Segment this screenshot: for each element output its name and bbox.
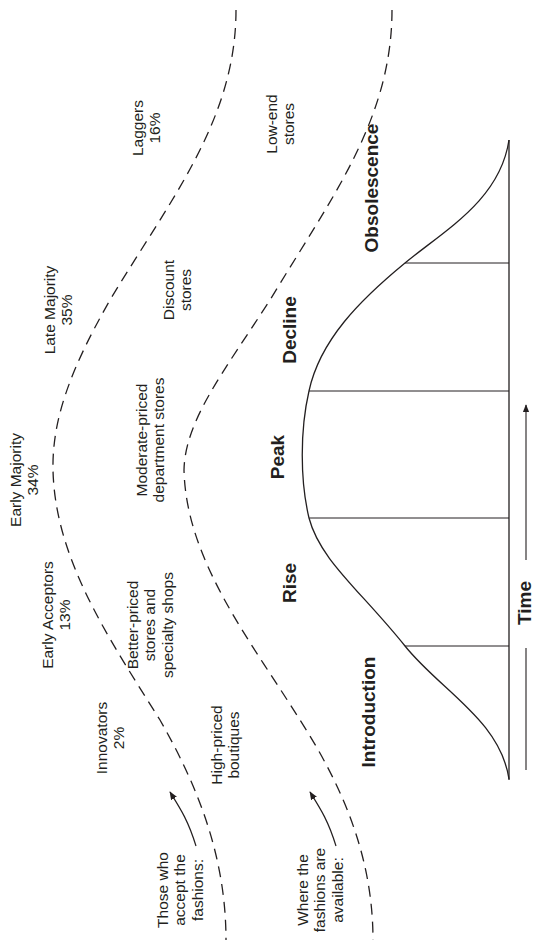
stage-decline: Decline <box>279 296 300 364</box>
availability-arrow-icon <box>310 792 336 846</box>
life-cycle-curve <box>302 140 509 779</box>
outlet-moderate-priced-department-stores: Moderate-priced department stores <box>133 378 168 503</box>
stage-introduction: Introduction <box>358 657 379 768</box>
outlet-low-end-stores: Low-end stores <box>263 94 298 153</box>
time-axis-label: Time <box>514 581 535 625</box>
acceptors-row-label: Those who accept the fashions: <box>154 852 206 928</box>
stage-rise: Rise <box>279 563 300 603</box>
consumer-group-early-acceptors: Early Acceptors 13% <box>39 561 74 669</box>
consumer-group-laggers: Laggers 16% <box>129 100 164 156</box>
availability-row-label: Where the fashions are available: <box>294 848 346 932</box>
consumer-group-late-majority: Late Majority 35% <box>41 266 76 355</box>
outlet-better-priced-stores: Better-priced stores and specialty shops <box>124 572 176 678</box>
outlet-high-priced-boutiques: High-priced boutiques <box>208 705 243 784</box>
stage-obsolescence: Obsolescence <box>361 124 382 253</box>
acceptors-arrow-icon <box>170 792 196 846</box>
consumer-group-innovators: Innovators 2% <box>93 702 128 774</box>
outlet-discount-stores: Discount stores <box>160 260 195 320</box>
consumer-group-early-majority: Early Majority 34% <box>7 433 42 527</box>
stage-peak: Peak <box>267 435 288 479</box>
